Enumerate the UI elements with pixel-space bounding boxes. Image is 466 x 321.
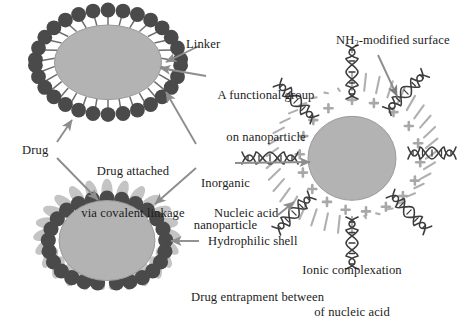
caption-ionic-line1: Ionic complexation <box>277 263 427 277</box>
label-functional-group-line2: on nanoparticle <box>200 130 332 144</box>
label-linker: Linker <box>186 37 220 51</box>
label-drug: Drug <box>22 143 48 157</box>
inorganic-core-covalent <box>55 25 162 100</box>
arrow-nh2-surface <box>378 55 397 96</box>
label-nh2-prefix: NH <box>336 33 354 47</box>
nanoparticle-drug-delivery-figure: Linker A functional group on nanoparticl… <box>0 0 466 321</box>
label-inorganic-line2: nanoparticle <box>178 218 273 232</box>
label-nh2-suffix: -modified surface <box>359 33 450 47</box>
caption-ionic-complexation: Ionic complexation of nucleic acid <box>277 235 427 321</box>
label-functional-group-line1: A functional group <box>200 88 332 102</box>
covalent-conjugate-panel <box>28 3 188 122</box>
label-nucleic-acid: Nucleic acid <box>214 206 278 220</box>
caption-ionic-line2: of nucleic acid <box>277 305 427 319</box>
label-nh2-modified-surface: NH2-modified surface <box>336 33 450 49</box>
label-inorganic-line1: Inorganic <box>178 176 273 190</box>
